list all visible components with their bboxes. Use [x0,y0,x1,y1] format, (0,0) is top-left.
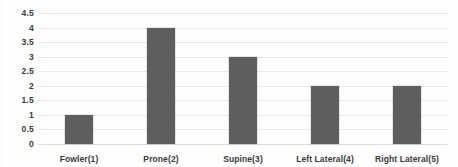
bar[interactable] [393,86,421,144]
x-label-slot: Fowler(1) [38,148,120,166]
x-axis-category-label: Prone(2) [143,154,178,164]
x-label-slot: Supine(3) [202,148,284,166]
bars-group [38,13,448,144]
bar-chart: 00.511.522.533.544.5 Fowler(1)Prone(2)Su… [0,0,458,167]
bar-slot [202,13,284,144]
y-axis-tick-label: 0 [29,139,34,149]
bar-slot [120,13,202,144]
x-axis-category-label: Supine(3) [223,154,263,164]
x-label-slot: Prone(2) [120,148,202,166]
y-axis-tick-label: 3.5 [22,37,34,47]
y-axis-tick-label: 2 [29,81,34,91]
x-axis-category-label: Fowler(1) [60,154,99,164]
y-axis-tick-label: 2.5 [22,66,34,76]
x-label-slot: Right Lateral(5) [366,148,448,166]
bar[interactable] [311,86,339,144]
bar[interactable] [147,28,175,144]
x-axis-category-labels: Fowler(1)Prone(2)Supine(3)Left Lateral(4… [38,148,448,166]
bar-slot [284,13,366,144]
x-label-slot: Left Lateral(4) [284,148,366,166]
gridline [38,144,448,145]
bar-slot [366,13,448,144]
bar[interactable] [229,57,257,144]
y-axis-tick-label: 3 [29,52,34,62]
x-axis-category-label: Right Lateral(5) [375,154,439,164]
y-axis-tick-label: 0.5 [22,124,34,134]
bar-slot [38,13,120,144]
y-axis-tick-labels: 00.511.522.533.544.5 [0,13,34,144]
y-axis-tick-label: 4.5 [22,8,34,18]
y-axis-tick-label: 1 [29,110,34,120]
y-axis-tick-label: 1.5 [22,95,34,105]
x-axis-category-label: Left Lateral(4) [296,154,354,164]
y-axis-tick-label: 4 [29,23,34,33]
bar[interactable] [65,115,93,144]
